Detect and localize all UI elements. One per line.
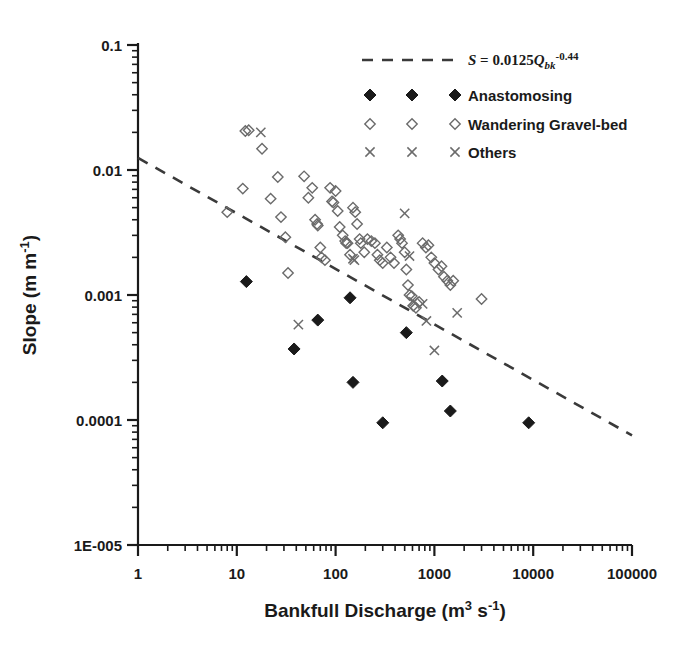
data-point-others [294,320,303,329]
data-point-wandering-gravel-bed [315,242,325,252]
data-point-wandering-gravel-bed [303,193,313,203]
y-axis-tick-label: 0.001 [84,287,122,304]
legend-marker-anastomosing [449,89,461,101]
legend-label-wandering-gravel-bed: Wandering Gravel-bed [468,116,627,133]
data-point-others [422,316,431,325]
data-point-anastomosing [377,417,389,429]
legend-marker-others [365,147,374,156]
x-axis-tick-label: 1 [134,565,142,582]
data-point-others [453,308,462,317]
data-point-wandering-gravel-bed [273,172,283,182]
legend-marker-anastomosing [364,89,376,101]
data-point-wandering-gravel-bed [265,193,275,203]
x-axis-tick-label: 10000 [512,565,554,582]
data-point-wandering-gravel-bed [403,280,413,290]
data-point-wandering-gravel-bed [276,212,286,222]
data-point-others [400,209,409,218]
data-point-wandering-gravel-bed [299,171,309,181]
data-point-anastomosing [312,314,324,326]
data-point-wandering-gravel-bed [372,250,382,260]
data-point-wandering-gravel-bed [382,242,392,252]
data-point-wandering-gravel-bed [352,219,362,229]
y-axis-title: Slope (m m-1) [17,235,40,355]
legend-marker-others [450,147,459,156]
data-point-anastomosing [344,292,356,304]
data-point-wandering-gravel-bed [307,183,317,193]
data-point-anastomosing [240,276,252,288]
x-axis-title: Bankfull Discharge (m3 s-1) [264,598,506,621]
figure-caption [8,628,678,646]
y-axis-tick-label: 0.1 [101,37,122,54]
data-point-anastomosing [347,376,359,388]
figure-container: 1101001000100001000001E-0050.00010.0010.… [0,0,686,650]
trendline [138,158,632,436]
legend-marker-wandering-gravel-bed [450,119,460,129]
data-point-wandering-gravel-bed [238,183,248,193]
x-axis-tick-label: 1000 [418,565,451,582]
data-point-others [256,128,265,137]
legend-label-equation: S = 0.0125Qbk-0.44 [468,50,579,71]
legend-marker-wandering-gravel-bed [365,119,375,129]
legend: S = 0.0125Qbk-0.44 [362,50,579,71]
data-point-wandering-gravel-bed [476,294,486,304]
legend-marker-wandering-gravel-bed [407,119,417,129]
x-axis-tick-label: 100 [323,565,348,582]
data-point-anastomosing [436,375,448,387]
legend-marker-anastomosing [406,89,418,101]
x-axis-tick-label: 10 [228,565,245,582]
legend-label-anastomosing: Anastomosing [468,87,572,104]
data-point-others [430,346,439,355]
scatter-plot: 1101001000100001000001E-0050.00010.0010.… [0,0,686,650]
data-point-anastomosing [400,327,412,339]
data-point-wandering-gravel-bed [401,264,411,274]
data-point-anastomosing [444,405,456,417]
x-axis-tick-label: 100000 [607,565,657,582]
data-point-wandering-gravel-bed [283,268,293,278]
legend-label-others: Others [468,144,516,161]
y-axis-tick-label: 0.0001 [76,412,122,429]
data-point-wandering-gravel-bed [257,144,267,154]
y-axis-tick-label: 0.01 [93,162,122,179]
data-point-anastomosing [288,343,300,355]
data-point-wandering-gravel-bed [436,261,446,271]
legend-marker-others [407,147,416,156]
y-axis-tick-label: 1E-005 [74,537,122,554]
data-point-anastomosing [523,417,535,429]
